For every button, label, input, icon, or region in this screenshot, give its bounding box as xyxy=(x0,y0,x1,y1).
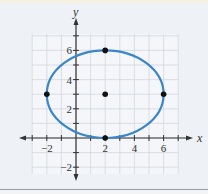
y-tick-label: 2 xyxy=(67,103,73,115)
y-axis-down-arrow-icon xyxy=(74,174,79,181)
x-tick-label: −2 xyxy=(41,142,53,154)
y-tick-label: 4 xyxy=(67,74,73,86)
x-tick-label: 2 xyxy=(102,142,108,154)
y-tick-label: 6 xyxy=(67,44,73,56)
y-tick-label: −2 xyxy=(60,161,72,173)
bottom-strip xyxy=(0,190,208,194)
x-tick-label: 6 xyxy=(161,142,167,154)
x-axis-label: x xyxy=(196,131,203,145)
x-axis-left-arrow-icon xyxy=(19,136,26,141)
x-tick-label: 4 xyxy=(132,142,138,154)
ellipse-chart: −2246−2246 x y xyxy=(0,0,208,194)
point-co-vertex-top xyxy=(102,48,108,54)
point-vertex-left xyxy=(44,91,50,97)
y-axis-label: y xyxy=(72,5,79,19)
point-co-vertex-bottom xyxy=(102,135,108,141)
point-vertex-right xyxy=(161,91,167,97)
y-axis-up-arrow-icon xyxy=(74,18,79,25)
point-center xyxy=(102,91,108,97)
x-axis-right-arrow-icon xyxy=(186,136,193,141)
